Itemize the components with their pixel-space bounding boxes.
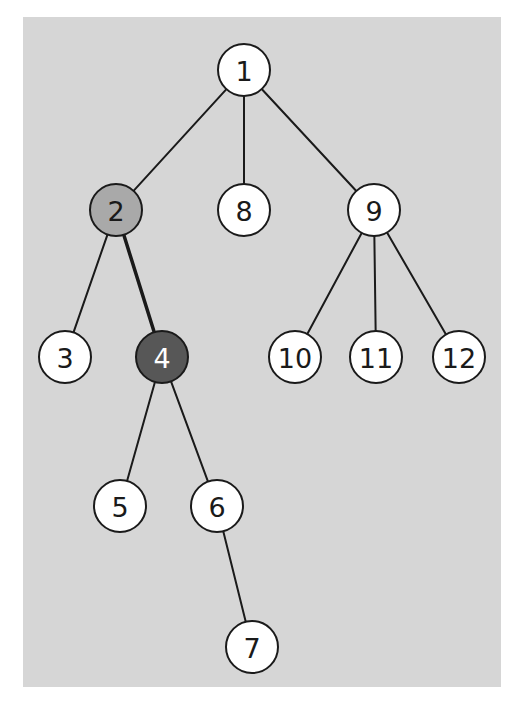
node-label: 11 — [359, 343, 393, 374]
node-label: 3 — [56, 343, 73, 374]
tree-node-10: 10 — [269, 331, 321, 383]
tree-node-3: 3 — [39, 331, 91, 383]
node-label: 8 — [235, 196, 252, 227]
edge-9-11 — [374, 236, 375, 331]
node-label: 9 — [365, 196, 382, 227]
tree-node-6: 6 — [191, 480, 243, 532]
node-label: 5 — [111, 492, 128, 523]
node-label: 12 — [442, 343, 476, 374]
diagram-background — [23, 17, 501, 687]
node-label: 1 — [235, 56, 252, 87]
tree-diagram: 128934101112567 — [0, 0, 524, 708]
node-label: 6 — [208, 492, 225, 523]
node-label: 10 — [278, 343, 312, 374]
tree-node-4: 4 — [136, 331, 188, 383]
node-label: 4 — [153, 343, 170, 374]
tree-node-12: 12 — [433, 331, 485, 383]
tree-node-7: 7 — [226, 621, 278, 673]
node-label: 2 — [107, 196, 124, 227]
tree-node-8: 8 — [218, 184, 270, 236]
tree-node-2: 2 — [90, 184, 142, 236]
tree-node-1: 1 — [218, 44, 270, 96]
tree-node-11: 11 — [350, 331, 402, 383]
node-label: 7 — [243, 633, 260, 664]
tree-node-9: 9 — [348, 184, 400, 236]
tree-node-5: 5 — [94, 480, 146, 532]
